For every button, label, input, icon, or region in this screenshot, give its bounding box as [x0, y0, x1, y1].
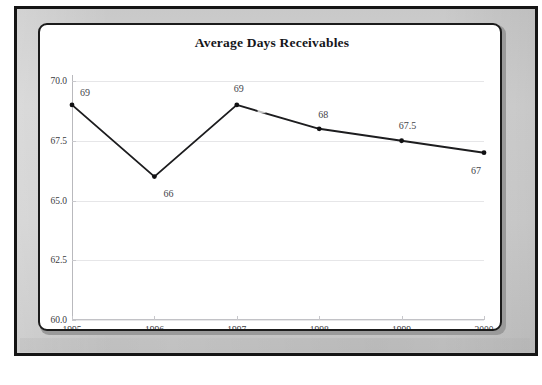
line-series: [72, 81, 484, 320]
x-tick-label: 1996: [145, 325, 164, 331]
chart-panel: Average Days Receivables 60.062.565.067.…: [38, 23, 502, 331]
data-point-marker: [482, 150, 487, 155]
data-point-label: 66: [163, 187, 173, 198]
y-tick-mark: [72, 320, 76, 321]
y-tick-label: 67.5: [50, 136, 67, 146]
x-tick-label: 2000: [475, 325, 494, 331]
chart-title: Average Days Receivables: [40, 35, 502, 51]
x-tick-mark: [484, 316, 485, 320]
data-point-marker: [70, 103, 75, 108]
series-line: [72, 105, 484, 177]
y-tick-label: 60.0: [50, 315, 67, 325]
data-point-label: 69: [234, 82, 244, 93]
data-point-label: 68: [318, 108, 328, 119]
gridline: [72, 320, 484, 321]
data-point-marker: [399, 138, 404, 143]
x-tick-label: 1999: [392, 325, 411, 331]
scan-artifact: [258, 110, 266, 113]
y-tick-label: 65.0: [50, 196, 67, 206]
data-point-marker: [317, 126, 322, 131]
screenshot-root: Average Days Receivables 60.062.565.067.…: [0, 0, 542, 385]
data-point-label: 69: [80, 86, 90, 97]
y-tick-label: 70.0: [50, 76, 67, 86]
data-point-label: 67.5: [399, 119, 417, 130]
data-point-marker: [234, 103, 239, 108]
x-tick-label: 1995: [63, 325, 82, 331]
plot-area: 60.062.565.067.570.0 1995199619971998199…: [72, 81, 484, 320]
x-tick-label: 1997: [227, 325, 246, 331]
data-point-marker: [152, 174, 157, 179]
y-tick-label: 62.5: [50, 255, 67, 265]
x-tick-label: 1998: [310, 325, 329, 331]
data-point-label: 67: [471, 164, 481, 175]
